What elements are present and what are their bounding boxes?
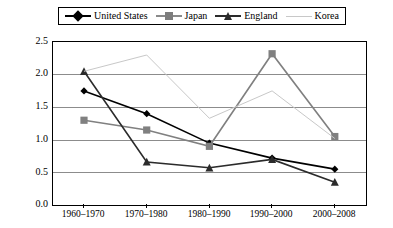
series-lines bbox=[53, 42, 366, 205]
legend-swatch-united-states bbox=[65, 10, 91, 22]
chart-figure: United States Japan England Korea 2.5 bbox=[0, 0, 393, 228]
data-point-japan-0 bbox=[80, 117, 87, 124]
x-label-2000-2008: 2000–2008 bbox=[313, 209, 356, 219]
data-point-united-states-0 bbox=[80, 87, 87, 94]
y-tick-0-0: 0.0 bbox=[36, 199, 49, 209]
legend-label-united-states: United States bbox=[93, 11, 148, 21]
legend-swatch-japan bbox=[156, 10, 182, 22]
legend-label-england: England bbox=[243, 11, 277, 21]
y-tick-2-5: 2.5 bbox=[36, 36, 49, 46]
x-label-1970-1980: 1970–1980 bbox=[125, 209, 168, 219]
x-tick-1 bbox=[83, 204, 84, 208]
y-axis-labels: 2.5 2.0 1.5 1.0 0.5 0.0 bbox=[18, 0, 48, 228]
x-tick-4 bbox=[271, 204, 272, 208]
legend-swatch-england bbox=[215, 10, 241, 22]
legend-item-united-states: United States bbox=[65, 10, 148, 22]
y-tick-2-0: 2.0 bbox=[36, 68, 49, 78]
data-point-united-states-1 bbox=[143, 110, 150, 117]
data-point-japan-3 bbox=[269, 50, 276, 57]
legend-item-england: England bbox=[215, 10, 277, 22]
data-point-japan-2 bbox=[206, 143, 213, 150]
x-tick-3 bbox=[209, 204, 210, 208]
legend-swatch-korea bbox=[286, 10, 312, 22]
y-tick-1-0: 1.0 bbox=[36, 134, 49, 144]
legend-item-korea: Korea bbox=[286, 10, 339, 22]
y-tick-0-5: 0.5 bbox=[36, 167, 49, 177]
x-tick-5 bbox=[334, 204, 335, 208]
x-label-1980-1990: 1980–1990 bbox=[188, 209, 231, 219]
x-tick-2 bbox=[146, 204, 147, 208]
plot-area bbox=[52, 41, 367, 206]
legend-item-japan: Japan bbox=[156, 10, 208, 22]
legend-label-korea: Korea bbox=[314, 11, 339, 21]
x-axis-labels: 1960–1970 1970–1980 1980–1990 1990–2000 … bbox=[0, 209, 393, 223]
x-label-1960-1970: 1960–1970 bbox=[62, 209, 105, 219]
data-point-united-states-4 bbox=[331, 166, 338, 173]
series-line-united-states bbox=[84, 91, 335, 169]
x-label-1990-2000: 1990–2000 bbox=[250, 209, 293, 219]
series-line-japan bbox=[84, 54, 335, 147]
chart-legend: United States Japan England Korea bbox=[58, 7, 346, 25]
legend-label-japan: Japan bbox=[184, 11, 208, 21]
data-point-japan-1 bbox=[143, 126, 150, 133]
y-tick-1-5: 1.5 bbox=[36, 101, 49, 111]
